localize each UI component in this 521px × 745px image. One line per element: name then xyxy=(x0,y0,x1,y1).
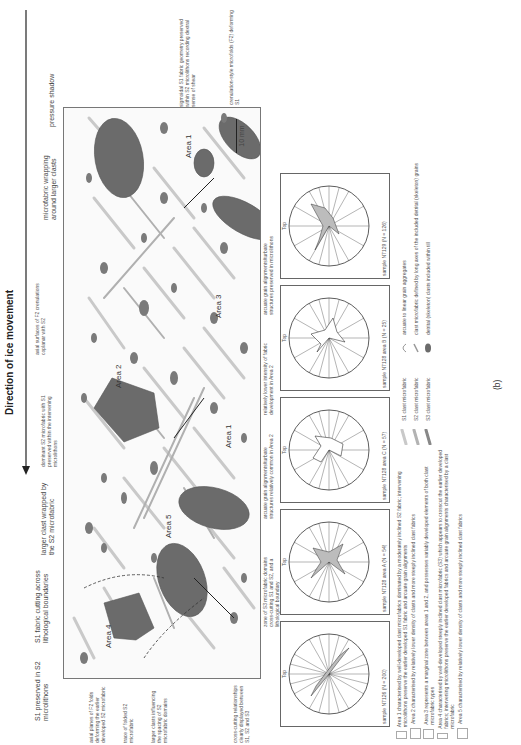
rose-label: sample N7128 area B (N = 25) xyxy=(381,320,387,388)
arcuate-grain-icon xyxy=(400,343,408,353)
legend-area-5: Area 5 characterised by relatively lower… xyxy=(457,449,468,739)
rose-plot xyxy=(281,622,377,726)
rose-top: Top xyxy=(281,670,287,678)
legend-areas: Area 1 characterised by well-developed c… xyxy=(396,449,470,739)
rose-label: sample N7126 (N = 200) xyxy=(381,669,387,724)
annotation-axial-surfaces: axial surfaces of F2 crenulations coplan… xyxy=(34,275,46,355)
legend-swatch xyxy=(423,729,434,739)
annotation-trace-folded-s2: trace of folded S2 microfabric xyxy=(122,688,134,743)
ice-direction-arrow xyxy=(20,5,32,475)
rose-diagram-1: sample N7126 (N = 200) Top xyxy=(280,621,390,727)
legend-symbols: S1 clast microfabric arcuate to linear g… xyxy=(400,115,432,445)
legend-swatch xyxy=(437,733,448,739)
legend-symbol-s3: S3 clast microfabric detrital (skeleton)… xyxy=(424,115,432,445)
figure-canvas: Direction of ice movement S1 preserved i… xyxy=(0,0,521,745)
rose-diagram-4: sample N7128 area B (N = 25) Top xyxy=(280,285,390,391)
ice-direction: Direction of ice movement xyxy=(4,115,15,415)
legend-area-1: Area 1 characterised by well-developed c… xyxy=(396,449,408,739)
legend-swatch xyxy=(396,731,407,739)
rose-label: sample N7128 area A (N = 54) xyxy=(381,545,387,612)
area-1a-label: Area 1 xyxy=(224,424,233,448)
s3-fabric-icon xyxy=(424,429,432,445)
legend-symbol-s1: S1 clast microfabric arcuate to linear g… xyxy=(400,115,408,445)
clast-fabric-icon xyxy=(412,343,420,353)
area-2-label: Area 2 xyxy=(114,364,123,388)
area-4-label: Area 4 xyxy=(104,624,113,648)
annotation-cross-cutting: cross-cutting relationships clearly disp… xyxy=(232,683,250,743)
annotation-microfabric-wrapping: microfabric wrapping around larger clast… xyxy=(42,140,58,220)
annotation-arcuate-microlithons: arcuate grain alignments/turbate structu… xyxy=(262,225,274,315)
rose-top: Top xyxy=(281,558,287,566)
rose-label: sample N7129 (N = 126) xyxy=(381,221,387,276)
panel-label: (b) xyxy=(492,380,502,390)
area-1b-label: Area 1 xyxy=(184,134,193,158)
annotation-sigmoidal-s1: sigmoidal S1 fabric geometry preserved w… xyxy=(178,7,196,107)
rose-plot xyxy=(281,398,377,502)
rose-plot xyxy=(281,286,377,390)
rose-diagram-3: sample N7128 area C (N = 57) Top xyxy=(280,397,390,503)
legend-swatch xyxy=(457,728,468,739)
legend-symbol-s2: S2 clast microfabric clast microfabric d… xyxy=(412,115,420,445)
legend-swatch xyxy=(410,728,421,739)
annotation-dominant-s2: dominant S2 microfabric with S1 preserve… xyxy=(40,387,58,467)
rose-top: Top xyxy=(281,334,287,342)
rose-top: Top xyxy=(281,446,287,454)
rose-plot xyxy=(281,174,377,278)
legend-area-3: Area 3 represents a marginal zone betwee… xyxy=(423,449,435,739)
rose-label: sample N7128 area C (N = 57) xyxy=(381,432,387,500)
annotation-arcuate-area2: arcuate grain alignments/turbate structu… xyxy=(262,434,274,519)
annotation-s1-preserved: S1 preserved in S2 microlithons xyxy=(34,639,50,721)
annotation-pressure-shadow: pressure shadow xyxy=(48,47,56,127)
rose-diagram-row: sample N7126 (N = 200) Top sample N7128 … xyxy=(280,127,392,727)
thin-section-artwork xyxy=(64,108,260,678)
annotation-s1-fabric-cutting: S1 fabric cutting across lithological bo… xyxy=(34,558,50,643)
scale-bar: 10 mm xyxy=(236,113,246,153)
legend-area-4: Area 4 characterised by well-developed s… xyxy=(437,449,455,739)
rose-top: Top xyxy=(281,222,287,230)
annotation-crenulation-microfolds: crenulation-style microfolds (F2) deform… xyxy=(228,10,240,105)
thin-section-drawing: Area 5 Area 4 Area 1 Area 2 Area 3 Area … xyxy=(63,107,261,679)
rose-diagram-2: sample N7128 area A (N = 54) Top xyxy=(280,509,390,615)
area-5-label: Area 5 xyxy=(164,514,173,538)
annotation-larger-clasts-spacing: larger clasts influencing the spacing of… xyxy=(150,683,168,743)
annotation-zone-s3: zone of S3 microfabric domains cross-cut… xyxy=(262,552,280,627)
rose-plot xyxy=(281,510,377,614)
rose-diagram-5: sample N7129 (N = 126) Top xyxy=(280,173,390,279)
scale-bar-label: 10 mm xyxy=(238,119,246,153)
s1-fabric-icon xyxy=(400,429,408,445)
ice-direction-label: Direction of ice movement xyxy=(4,115,15,415)
annotation-lower-intensity: relatively lower intensity of fabric dev… xyxy=(262,335,274,415)
detrital-clast-icon xyxy=(424,343,432,353)
legend-area-2: Area 2 characterised by relatively lower… xyxy=(410,449,421,739)
s2-fabric-icon xyxy=(412,429,420,445)
annotation-larger-clast: larger clast wrapped by the S2 microfabr… xyxy=(40,480,56,555)
area-3-label: Area 3 xyxy=(214,294,223,318)
annotation-axial-planes-f2: axial planes of F2 folds deforming the e… xyxy=(88,683,106,743)
